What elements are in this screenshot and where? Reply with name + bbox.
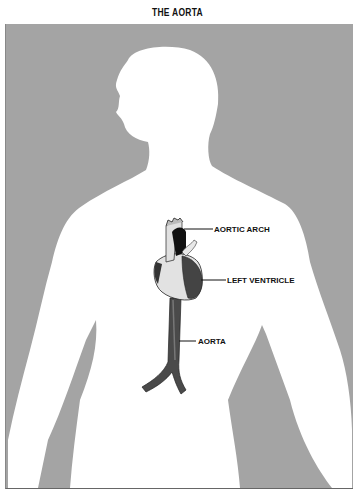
left-ventricle-label: LEFT VENTRICLE: [227, 276, 295, 285]
aorta-label: AORTA: [198, 337, 226, 346]
aortic-arch-label: AORTIC ARCH: [214, 225, 270, 234]
anatomy-figure: AORTIC ARCH LEFT VENTRICLE AORTA: [0, 0, 355, 491]
